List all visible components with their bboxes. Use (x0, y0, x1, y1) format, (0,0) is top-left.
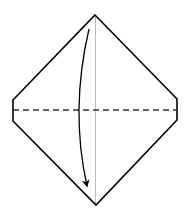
diagram-svg (0, 0, 189, 212)
fold-arrow-icon (79, 29, 89, 186)
origami-diagram (0, 0, 189, 212)
